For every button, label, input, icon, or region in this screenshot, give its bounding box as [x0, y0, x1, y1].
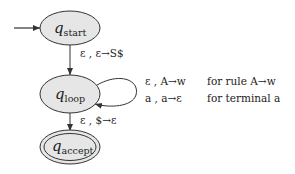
transition-loop-to-accept-label: ε , $→ε: [80, 114, 116, 126]
legend-transition-terminal: a , a→ε: [145, 92, 182, 104]
transition-start-to-loop-label: ε , ε→S$: [80, 47, 124, 59]
legend-description-rule: for rule A→w: [207, 75, 276, 87]
transition-loop-self: [95, 78, 137, 106]
state-accept: qaccept: [40, 130, 100, 164]
state-loop: qloop: [40, 75, 100, 113]
pda-diagram: qstart ε , ε→S$ qloop ε , $→ε qaccept ε …: [0, 0, 295, 174]
transition-legend: ε , A→w for rule A→w a , a→ε for termina…: [145, 75, 280, 104]
state-start: qstart: [40, 11, 100, 45]
legend-description-terminal: for terminal a: [207, 92, 280, 104]
legend-transition-rule: ε , A→w: [145, 75, 186, 87]
